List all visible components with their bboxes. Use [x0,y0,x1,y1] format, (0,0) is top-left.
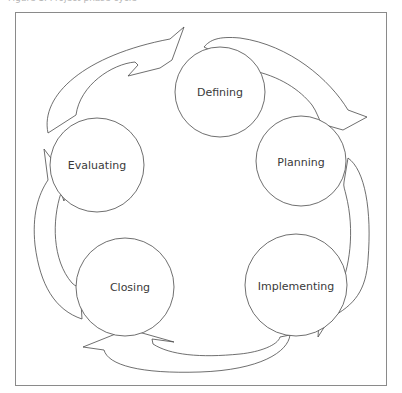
stage-label-planning: Planning [277,156,324,169]
arrow-evaluating-to-defining [47,27,184,133]
arrow-implementing-to-closing [83,329,290,372]
stage-label-evaluating: Evaluating [68,159,126,172]
stage-label-closing: Closing [110,281,150,294]
stage-label-implementing: Implementing [258,280,335,293]
cycle-diagram [0,0,402,393]
stage-label-defining: Defining [197,86,243,99]
